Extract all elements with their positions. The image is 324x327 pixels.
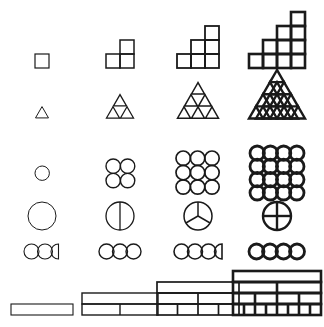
circle-array-stage-2 — [103, 156, 138, 191]
circle-chain-stage-4 — [246, 241, 308, 262]
circle-chain-stage-3 — [171, 241, 226, 262]
fraction-bars-stage-4 — [230, 268, 324, 318]
fraction-bars-stage-1 — [8, 301, 76, 318]
partitioned-disc-stage-3 — [180, 198, 216, 234]
staircase-squares-stage-1 — [32, 51, 52, 71]
circle-array-stage-4 — [247, 143, 307, 203]
partitioned-disc-stage-1 — [24, 198, 60, 234]
fraction-bars-stage-2 — [79, 290, 161, 318]
circle-array-stage-3 — [173, 148, 222, 197]
circle-chain-stage-1 — [21, 241, 62, 262]
triangle-stack-stage-1 — [32, 103, 52, 121]
triangle-stack-stage-2 — [103, 91, 137, 121]
triangle-stack-stage-4 — [246, 67, 308, 121]
staircase-squares-stage-2 — [103, 37, 137, 71]
staircase-squares-stage-3 — [174, 23, 222, 71]
fraction-bars-stage-3 — [154, 279, 242, 318]
partitioned-disc-stage-4 — [259, 198, 295, 234]
triangle-stack-stage-3 — [174, 79, 222, 121]
staircase-squares-stage-4 — [246, 9, 308, 71]
circle-array-stage-1 — [32, 163, 52, 183]
circle-chain-stage-2 — [96, 241, 144, 262]
figure-canvas — [0, 0, 324, 327]
partitioned-disc-stage-2 — [102, 198, 138, 234]
